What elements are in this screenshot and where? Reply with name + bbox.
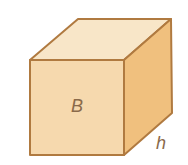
height-label: h	[156, 134, 166, 152]
cube-diagram: B h	[0, 0, 188, 165]
base-label: B	[71, 97, 83, 115]
